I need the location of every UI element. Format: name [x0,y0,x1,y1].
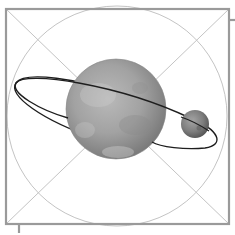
planet-with-moon-icon [0,0,235,235]
planet [66,59,166,159]
moon [181,110,209,138]
planet-icon-canvas [0,0,235,235]
